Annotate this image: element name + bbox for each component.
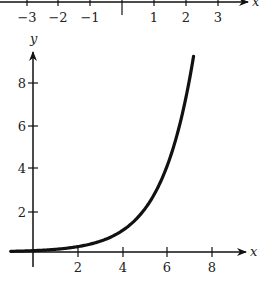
x-axis-label: x [250, 244, 258, 259]
top-tick-label-neg3: −3 [17, 10, 36, 25]
x-tick-label-4: 4 [119, 260, 127, 275]
top-tick-label-1: 1 [150, 10, 158, 25]
top-tick-label-neg1: −1 [80, 10, 99, 25]
y-tick-label-2: 2 [18, 205, 26, 220]
y-tick-label-8: 8 [18, 76, 26, 91]
top-tick-label-neg2: −2 [48, 10, 67, 25]
figure: −3 −2 −1 1 2 3 x y x 2 4 6 8 [0, 0, 264, 285]
top-tick-label-3: 3 [214, 10, 222, 25]
x-tick-label-8: 8 [208, 260, 216, 275]
top-axis-x-label: x [252, 0, 260, 9]
exponential-curve [11, 56, 194, 251]
y-axis-label: y [29, 31, 38, 46]
top-tick-label-2: 2 [182, 10, 190, 25]
y-tick-label-4: 4 [18, 161, 26, 176]
x-tick-label-6: 6 [163, 260, 171, 275]
top-number-line: −3 −2 −1 1 2 3 x [0, 0, 260, 25]
exponential-graph: y x 2 4 6 8 2 4 6 8 [10, 31, 258, 275]
x-tick-label-2: 2 [74, 260, 82, 275]
y-tick-label-6: 6 [18, 119, 26, 134]
